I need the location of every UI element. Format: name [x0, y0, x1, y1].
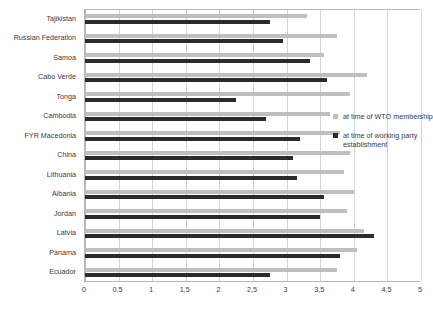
y-tick-label: Cambodia	[43, 112, 76, 120]
bar-wto-membership	[85, 268, 337, 272]
y-tick-label: Russian Federation	[14, 34, 76, 42]
bar-wto-membership	[85, 14, 307, 18]
bar-wto-membership	[85, 170, 344, 174]
x-tick-label: 3	[284, 285, 288, 294]
y-tick-label: Tonga	[56, 93, 76, 101]
bar-wto-membership	[85, 229, 364, 233]
y-tick-label: Tajikistan	[46, 15, 76, 23]
x-tick-label: 1,5	[180, 285, 190, 294]
x-tick-label: 5	[418, 285, 422, 294]
bar-working-party	[85, 20, 270, 24]
y-tick-label: FYR Macedonia	[24, 132, 76, 140]
bar-wto-membership	[85, 112, 330, 116]
bar-working-party	[85, 98, 236, 102]
bar-group	[85, 166, 420, 186]
y-tick-label: Albania	[52, 190, 76, 198]
bar-wto-membership	[85, 92, 350, 96]
bar-working-party	[85, 156, 293, 160]
y-tick-label: Ecuador	[49, 268, 76, 276]
legend-item: at time of working party establishment	[333, 131, 433, 150]
bar-working-party	[85, 254, 340, 258]
legend-item-label: at time of WTO membership	[343, 112, 433, 122]
x-tick-label: 0,5	[113, 285, 123, 294]
bar-wto-membership	[85, 131, 340, 135]
bar-wto-membership	[85, 190, 354, 194]
bar-group	[85, 88, 420, 108]
x-tick-label: 3,5	[314, 285, 324, 294]
y-tick-label: Cabo Verde	[38, 73, 76, 81]
bar-group	[85, 205, 420, 225]
chart-legend: at time of WTO membershipat time of work…	[333, 112, 433, 159]
bar-group	[85, 244, 420, 264]
y-tick-label: Jordan	[54, 210, 76, 218]
legend-item-label: at time of working party establishment	[343, 131, 433, 150]
x-tick-label: 2,5	[247, 285, 257, 294]
bar-working-party	[85, 195, 324, 199]
x-tick-label: 4,5	[381, 285, 391, 294]
bar-group	[85, 186, 420, 206]
x-tick-label: 4	[351, 285, 355, 294]
bar-chart: TajikistanRussian FederationSamoaCabo Ve…	[0, 0, 433, 310]
bar-group	[85, 30, 420, 50]
bar-working-party	[85, 137, 300, 141]
bar-wto-membership	[85, 151, 350, 155]
y-tick-label: Panama	[49, 249, 76, 257]
bar-working-party	[85, 39, 283, 43]
bar-wto-membership	[85, 209, 347, 213]
y-tick-label: Samoa	[53, 54, 76, 62]
x-tick-label: 0	[82, 285, 86, 294]
bar-wto-membership	[85, 248, 357, 252]
bar-working-party	[85, 176, 297, 180]
bar-working-party	[85, 117, 266, 121]
x-tick-label: 2	[216, 285, 220, 294]
bar-group	[85, 10, 420, 30]
bar-group	[85, 49, 420, 69]
bar-group	[85, 264, 420, 284]
bar-working-party	[85, 59, 310, 63]
y-axis: TajikistanRussian FederationSamoaCabo Ve…	[0, 9, 80, 282]
y-tick-label: Lithuania	[47, 171, 76, 179]
bar-group	[85, 69, 420, 89]
y-tick-label: Latvia	[57, 229, 76, 237]
bar-wto-membership	[85, 34, 337, 38]
y-tick-label: China	[57, 151, 76, 159]
bar-wto-membership	[85, 73, 367, 77]
bar-working-party	[85, 234, 374, 238]
x-axis: 00,511,522,533,544,55	[84, 285, 420, 299]
x-tick-label: 1	[149, 285, 153, 294]
bar-working-party	[85, 273, 270, 277]
bar-group	[85, 225, 420, 245]
legend-item: at time of WTO membership	[333, 112, 433, 122]
legend-swatch-icon	[333, 133, 338, 138]
bar-working-party	[85, 215, 320, 219]
legend-swatch-icon	[333, 114, 338, 119]
bar-wto-membership	[85, 53, 324, 57]
bar-working-party	[85, 78, 327, 82]
